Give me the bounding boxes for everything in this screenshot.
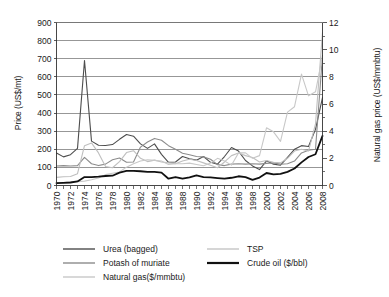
svg-text:1996: 1996: [234, 191, 244, 210]
svg-text:300: 300: [37, 126, 51, 136]
svg-text:1978: 1978: [108, 191, 118, 210]
x-axis-ticks: 1970197219741976197819801982198419861988…: [52, 186, 328, 211]
svg-text:2: 2: [329, 153, 334, 163]
line-chart-plot: 0100200300400500600700800900 024681012 1…: [0, 0, 389, 297]
legend-item: Natural gas($/mmbtu): [63, 272, 185, 282]
legend-item: Crude oil ($/bbl): [207, 258, 308, 268]
svg-text:4: 4: [329, 126, 334, 136]
legend-item: Potash of muriate: [63, 258, 170, 268]
svg-text:100: 100: [37, 162, 51, 172]
svg-text:500: 500: [37, 90, 51, 100]
svg-text:1970: 1970: [52, 191, 62, 210]
svg-text:900: 900: [37, 18, 51, 28]
svg-text:1972: 1972: [66, 191, 76, 210]
chart-figure: Price (US$/mt) Natural gas price (US$/mm…: [0, 0, 389, 297]
svg-text:2008: 2008: [318, 191, 328, 210]
svg-text:2006: 2006: [304, 191, 314, 210]
data-series-group: [57, 32, 323, 183]
legend-item: Urea (bagged): [63, 244, 158, 254]
svg-text:10: 10: [329, 45, 339, 55]
svg-text:1990: 1990: [192, 191, 202, 210]
svg-text:200: 200: [37, 144, 51, 154]
y-axis-right-ticks: 024681012: [323, 18, 339, 191]
legend-label: Crude oil ($/bbl): [247, 258, 308, 268]
y-axis-left-ticks: 0100200300400500600700800900: [37, 18, 56, 191]
legend-label: Potash of muriate: [103, 258, 170, 268]
svg-text:0: 0: [329, 181, 334, 191]
svg-text:2002: 2002: [276, 191, 286, 210]
svg-text:2004: 2004: [290, 191, 300, 210]
svg-text:600: 600: [37, 72, 51, 82]
svg-text:1988: 1988: [178, 191, 188, 210]
svg-text:1980: 1980: [122, 191, 132, 210]
legend-label: TSP: [247, 244, 264, 254]
svg-text:400: 400: [37, 108, 51, 118]
svg-text:800: 800: [37, 36, 51, 46]
svg-text:1986: 1986: [164, 191, 174, 210]
svg-text:2000: 2000: [262, 191, 272, 210]
svg-text:1994: 1994: [220, 191, 230, 210]
svg-text:6: 6: [329, 99, 334, 109]
gridlines: [57, 23, 323, 168]
chart-legend: Urea (bagged)TSPPotash of muriateCrude o…: [63, 244, 308, 282]
svg-text:12: 12: [329, 18, 339, 28]
svg-text:1982: 1982: [136, 191, 146, 210]
svg-text:1992: 1992: [206, 191, 216, 210]
svg-text:700: 700: [37, 54, 51, 64]
svg-text:1984: 1984: [150, 191, 160, 210]
svg-text:1974: 1974: [80, 191, 90, 210]
svg-text:1976: 1976: [94, 191, 104, 210]
svg-text:8: 8: [329, 72, 334, 82]
legend-label: Urea (bagged): [103, 244, 158, 254]
svg-text:1998: 1998: [248, 191, 258, 210]
legend-label: Natural gas($/mmbtu): [103, 272, 185, 282]
legend-item: TSP: [207, 244, 264, 254]
svg-text:0: 0: [47, 181, 52, 191]
